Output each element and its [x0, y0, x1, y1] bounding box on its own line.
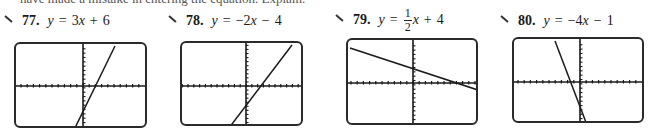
graph-plot	[514, 39, 642, 121]
equation-equals: =	[555, 13, 563, 29]
equation-var: x	[583, 13, 589, 29]
equation-const: 1	[607, 13, 614, 29]
equation: y = −4 x − 1	[544, 13, 614, 29]
equation-coef: −4	[568, 13, 583, 29]
equation-op: −	[594, 13, 602, 29]
problem-label: 80. y = −4 x − 1	[500, 9, 614, 33]
problem-number: 80.	[518, 13, 536, 29]
equation-lhs: y	[544, 13, 550, 29]
calculator-screen	[512, 37, 644, 123]
pencil-icon	[500, 15, 508, 22]
problem-80: 80. y = −4 x − 1	[0, 0, 652, 139]
